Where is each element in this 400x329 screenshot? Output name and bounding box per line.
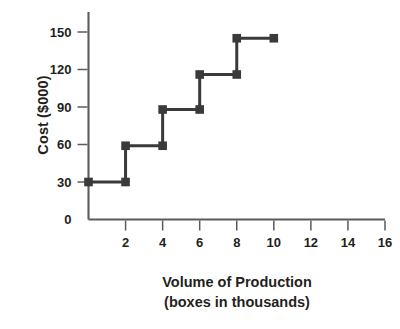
data-point-marker xyxy=(195,105,204,114)
data-point-marker xyxy=(84,178,93,187)
y-tick-label: 60 xyxy=(57,137,71,152)
x-tick-label: 16 xyxy=(378,235,392,250)
x-tick-label: 10 xyxy=(267,235,281,250)
y-tick-label: 30 xyxy=(57,175,71,190)
x-tick-label: 2 xyxy=(122,235,129,250)
x-axis-title: Volume of Production (boxes in thousands… xyxy=(88,272,386,312)
y-tick-label: 150 xyxy=(50,25,72,40)
data-point-marker xyxy=(121,178,130,187)
x-tick-label: 14 xyxy=(341,235,356,250)
y-axis-ticks: 0306090120150 xyxy=(50,25,88,228)
data-point-marker xyxy=(232,70,241,79)
x-tick-label: 8 xyxy=(233,235,240,250)
x-axis-title-line-2: (boxes in thousands) xyxy=(88,292,386,312)
data-point-marker xyxy=(158,105,167,114)
y-tick-label: 120 xyxy=(50,62,72,77)
series-step-line xyxy=(89,38,274,182)
data-point-marker xyxy=(158,141,167,150)
y-tick-label: 90 xyxy=(57,100,71,115)
x-axis-title-line-1: Volume of Production xyxy=(88,272,386,292)
x-axis-ticks: 246810121416 xyxy=(122,221,392,250)
data-point-marker xyxy=(232,34,241,43)
x-tick-label: 4 xyxy=(159,235,167,250)
chart-container: Cost ($000) 0306090120150 246810121416 V… xyxy=(0,0,400,329)
x-tick-label: 12 xyxy=(304,235,318,250)
x-tick-label: 6 xyxy=(196,235,203,250)
y-tick-label: 0 xyxy=(64,212,71,227)
data-point-marker xyxy=(121,141,130,150)
data-point-marker xyxy=(195,70,204,79)
data-point-marker xyxy=(270,34,279,43)
